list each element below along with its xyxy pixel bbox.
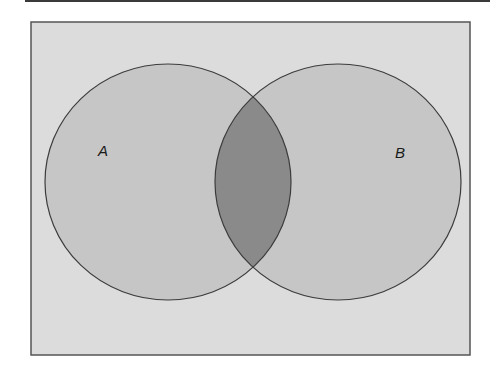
set-b-label: B [395, 144, 405, 161]
set-a-label: A [97, 142, 108, 159]
venn-diagram: A B [0, 0, 490, 373]
